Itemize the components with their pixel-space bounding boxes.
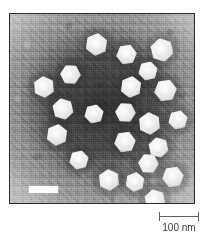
scale-bar-label: 100 nm <box>155 222 203 234</box>
figure-root: 100 nm <box>0 0 205 236</box>
scale-bar-marker <box>159 212 199 222</box>
electron-micrograph-image <box>9 13 195 204</box>
scale-bar-rule <box>159 216 199 217</box>
scale-bar-right-cap <box>198 212 199 221</box>
internal-scale-bar <box>29 186 58 193</box>
